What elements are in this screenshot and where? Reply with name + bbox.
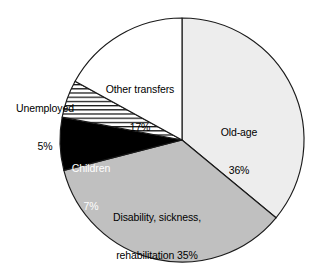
slice-label-other-transfers-value: 17%: [60, 121, 220, 134]
slice-label-old-age-value: 36%: [159, 164, 319, 177]
slice-label-other-transfers-name: Other transfers: [60, 83, 220, 96]
slice-label-other-transfers: Other transfers 17%: [60, 58, 220, 158]
pie-chart: Old-age 36% Disability, sickness, rehabi…: [0, 0, 321, 278]
slice-label-children-value: 7%: [11, 200, 171, 213]
slice-label-disability-value: rehabilitation 35%: [77, 249, 237, 262]
